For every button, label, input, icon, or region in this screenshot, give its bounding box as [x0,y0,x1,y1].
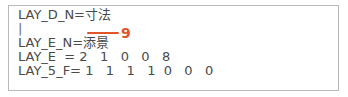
code-line-cursor: | [18,22,333,36]
code-line-layer-e-values: LAY_E = 2 1 0 0 8 [18,50,333,64]
document-text-frame: LAY_D_N=寸法 | LAY_E_N=添景 LAY_E = 2 1 0 0 … [8,5,339,91]
config-code-block: LAY_D_N=寸法 | LAY_E_N=添景 LAY_E = 2 1 0 0 … [18,8,333,78]
screenshot-root: LAY_D_N=寸法 | LAY_E_N=添景 LAY_E = 2 1 0 0 … [0,0,348,97]
code-line-layer-d-name: LAY_D_N=寸法 [18,8,333,22]
code-line-layer-5-f-values: LAY_5_F= 1 1 1 1 0 0 0 [18,64,333,78]
code-line-layer-e-name: LAY_E_N=添景 [18,36,333,50]
